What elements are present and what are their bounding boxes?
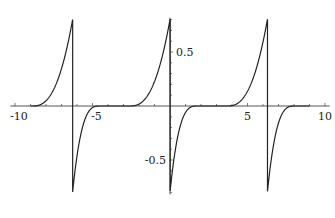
x-tick-label: -5	[91, 110, 102, 123]
y-tick-label: -0.5	[145, 154, 166, 167]
chart: -10-55100.5-0.5	[0, 0, 335, 218]
x-tick-label: 5	[244, 110, 251, 123]
y-tick-label: 0.5	[176, 46, 194, 59]
series-line	[31, 20, 310, 192]
plot-area: -10-55100.5-0.5	[0, 0, 335, 218]
x-tick-label: 10	[318, 110, 332, 123]
x-tick-label: -10	[10, 110, 28, 123]
